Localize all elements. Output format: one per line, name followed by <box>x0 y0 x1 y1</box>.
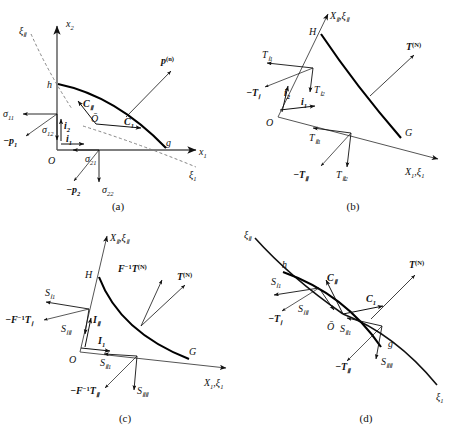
traction-T-II1-arrow <box>313 128 351 133</box>
panel-a: x2 x1 ξⅡ ξ1 h g O Ō CⅡ C1 i2 i1 σ11 σ12… <box>0 0 235 215</box>
traction-minus-T-I-label: −TⅠ <box>246 87 261 100</box>
traction-T-N-arrow <box>141 285 185 326</box>
stress-sigma22-label: σ22 <box>102 184 114 197</box>
axis-xi1-curve <box>343 314 437 385</box>
traction-minus-T-I-arrow <box>265 68 313 87</box>
stress-sigma11-label: σ11 <box>3 108 14 121</box>
point-H-label: H <box>84 269 93 280</box>
point-G-label: G <box>405 127 412 138</box>
stress-S-I1-arrow <box>46 302 89 309</box>
panel-b-svg: XⅡ,ξⅡ X1,ξ1 H G O i2 i1 TⅠ1 TⅠ2 TⅡ1 TⅡ2 … <box>235 0 470 215</box>
traction-minus-T-II-arrow <box>321 133 351 166</box>
stress-S-I1-label: SⅠ1 <box>45 287 55 300</box>
axis-xi2-label: ξⅡ <box>244 229 252 242</box>
vector-C2-label: CⅡ <box>327 272 338 285</box>
point-h-label: h <box>282 259 287 270</box>
axis-X2-xi2-label: XⅡ,ξⅡ <box>109 232 130 245</box>
traction-T-N-label: T(N) <box>409 259 424 271</box>
point-H-label: H <box>308 26 317 37</box>
stress-S-II2-label: SⅡⅡ <box>137 385 149 398</box>
panel-a-caption: (a) <box>98 200 138 212</box>
panel-c-svg: XⅡ,ξⅡ X1,ξ1 H G O IⅡ I1 SⅠ1 SⅠⅡ SⅡ1 SⅡⅡ … <box>0 222 235 441</box>
traction-p-n-label: p(n) <box>160 55 174 67</box>
panel-d-caption: (d) <box>346 412 386 424</box>
panel-d: ξⅡ ξ1 h g Ō CⅡ C1 SⅠ1 SⅠⅡ SⅡ1 SⅡⅡ −TⅠ −… <box>235 222 470 441</box>
axis-X2-xi2-line <box>80 236 107 352</box>
axis-xi2-dashed <box>31 34 72 109</box>
vector-I1-label: I1 <box>97 335 105 348</box>
boundary-curve-HG <box>99 277 189 359</box>
axis-xi2-label: ξⅡ <box>19 25 27 38</box>
point-g-label: g <box>388 338 393 349</box>
vector-C1-label: C1 <box>366 293 376 306</box>
traction-minus-p1-label: −p1 <box>3 135 17 148</box>
traction-minus-Finv-T-I-arrow <box>44 309 89 320</box>
axis-xi1-dashed <box>83 126 196 167</box>
vector-i1-arrow <box>280 106 315 110</box>
traction-T-I2-label: TⅠ2 <box>314 84 326 97</box>
boundary-curve-hg <box>58 84 166 148</box>
point-Obar-label: Ō <box>327 321 334 332</box>
panel-c-caption: (c) <box>105 412 145 424</box>
traction-T-II2-arrow <box>347 133 351 167</box>
traction-minus-Finv-T-II-arrow <box>105 356 137 388</box>
panel-c: XⅡ,ξⅡ X1,ξ1 H G O IⅡ I1 SⅠ1 SⅠⅡ SⅡ1 SⅡⅡ … <box>0 222 235 441</box>
traction-T-I1-arrow <box>267 63 313 68</box>
stress-S-II1-label: SⅡ1 <box>340 323 351 336</box>
axis-X1-xi1-label: X1,ξ1 <box>404 166 424 179</box>
vector-I2-label: IⅡ <box>92 314 101 327</box>
traction-p-n-arrow <box>126 71 171 117</box>
vector-i1-label: i1 <box>301 96 307 109</box>
point-O-label: O <box>69 354 76 365</box>
axis-X1-xi1-line <box>278 117 438 159</box>
axis-X2-xi2-label: XⅡ,ξⅡ <box>329 10 350 23</box>
stress-S-I1-label: SⅠ1 <box>271 276 281 289</box>
vector-I2-arrow <box>85 318 91 347</box>
axis-X1-xi1-label: X1,ξ1 <box>203 377 223 390</box>
panel-b: XⅡ,ξⅡ X1,ξ1 H G O i2 i1 TⅠ1 TⅠ2 TⅡ1 TⅡ2 … <box>235 0 470 215</box>
traction-T-N-arrow <box>370 55 414 96</box>
panel-b-caption: (b) <box>333 200 373 212</box>
traction-minus-Finv-T-II-label: −F−1TⅡ <box>70 385 100 398</box>
point-Obar-label: Ō <box>91 113 98 124</box>
traction-minus-T-I-label: −TⅠ <box>268 313 283 326</box>
traction-T-II1-label: TⅡ1 <box>309 132 321 145</box>
axis-xi1-label: ξ1 <box>189 169 197 182</box>
point-h-label: h <box>47 79 52 90</box>
axis-xi1-label: ξ1 <box>436 391 444 404</box>
stress-S-I2-label: SⅠⅡ <box>298 303 309 316</box>
panel-a-svg: x2 x1 ξⅡ ξ1 h g O Ō CⅡ C1 i2 i1 σ11 σ12… <box>0 0 235 215</box>
vector-i2-label: i2 <box>64 120 71 133</box>
axis-x2-label: x2 <box>65 18 74 31</box>
traction-T-N-arrow <box>371 275 415 319</box>
traction-minus-p2-label: −p2 <box>66 184 81 197</box>
traction-T-N-label: T(N) <box>406 41 421 53</box>
traction-T-N-label: T(N) <box>177 271 192 283</box>
stress-S-II1-label: SⅡ1 <box>100 357 111 370</box>
traction-minus-Finv-T-I-label: −F−1TⅠ <box>5 314 34 327</box>
axis-x1-label: x1 <box>198 146 207 159</box>
point-G-label: G <box>189 346 196 357</box>
panel-d-svg: ξⅡ ξ1 h g Ō CⅡ C1 SⅠ1 SⅠⅡ SⅡ1 SⅡⅡ −TⅠ −… <box>235 222 470 441</box>
stress-S-I2-label: SⅠⅡ <box>61 323 72 336</box>
stress-sigma12-label: σ12 <box>42 124 54 137</box>
vector-I1-arrow <box>81 348 110 351</box>
vector-i1-label: i1 <box>66 133 72 146</box>
vector-C2-label: CⅡ <box>83 98 94 111</box>
stress-S-II2-label: SⅡⅡ <box>381 356 393 369</box>
point-g-label: g <box>166 137 171 148</box>
point-O-label: O <box>266 117 273 128</box>
traction-Finv-T-N-label: F−1T(N) <box>117 263 147 275</box>
traction-minus-T-II-label: −TⅡ <box>335 361 351 374</box>
traction-minus-T-II-label: −TⅡ <box>293 169 309 182</box>
traction-Finv-T-N-arrow <box>141 280 162 326</box>
figure-root: x2 x1 ξⅡ ξ1 h g O Ō CⅡ C1 i2 i1 σ11 σ12… <box>0 0 470 441</box>
boundary-curve-HG <box>321 34 401 138</box>
traction-T-I1-label: TⅠ1 <box>262 49 273 62</box>
traction-T-II2-label: TⅡ2 <box>336 169 349 182</box>
vector-C1-arrow <box>96 124 141 128</box>
traction-T-I2-arrow <box>310 68 313 92</box>
point-O-label: O <box>48 155 55 166</box>
